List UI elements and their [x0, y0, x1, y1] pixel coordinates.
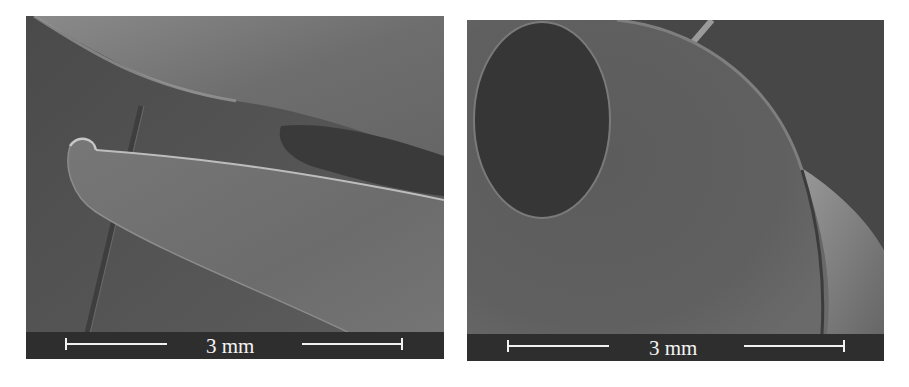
left-sem-panel: 3 mm	[26, 16, 444, 359]
right-scale-tick-end	[843, 340, 845, 352]
left-sem-image	[26, 16, 444, 359]
right-scale-strip: 3 mm	[467, 334, 884, 361]
left-scale-bar-left	[65, 343, 167, 345]
right-scale-label: 3 mm	[649, 336, 697, 360]
left-scale-label: 3 mm	[206, 334, 254, 358]
right-scale-bar-left	[507, 345, 609, 347]
right-sem-panel: 3 mm	[467, 20, 884, 361]
right-scale-bar-right	[744, 345, 845, 347]
left-scale-tick-end	[401, 338, 403, 350]
left-scale-bar-right	[302, 343, 403, 345]
left-scale-strip: 3 mm	[26, 332, 444, 359]
right-sem-image	[467, 20, 884, 361]
